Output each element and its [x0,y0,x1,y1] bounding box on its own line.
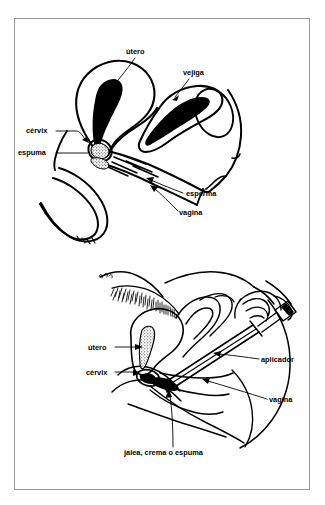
applicator [159,301,296,392]
pubic-hair [99,274,179,318]
svg-text:vagina: vagina [269,395,293,404]
uterus-outline-bottom [131,309,183,375]
svg-text:útero: útero [88,343,107,352]
svg-text:jalea, crema o espuma: jalea, crema o espuma [123,448,204,457]
figure-bottom-applicator-insertion: útero cérvix aplicador vagina jalea, cre… [0,0,325,505]
illustration-page: útero vejiga cérvix espuma esperma [0,0,325,505]
label-vagina-bottom: vagina [202,378,293,404]
label-aplicador: aplicador [213,351,294,364]
svg-text:cérvix: cérvix [86,368,108,377]
pelvic-organ-loops [176,294,234,357]
hand [235,281,292,321]
svg-text:aplicador: aplicador [261,355,294,364]
label-utero-bottom: útero [88,343,143,352]
label-cervix-bottom: cérvix [86,368,141,377]
